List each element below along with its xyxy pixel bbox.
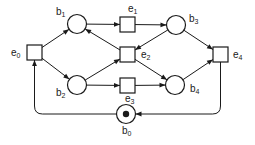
label-e0: e0 — [11, 47, 21, 59]
arc-e2-to-b4 — [135, 59, 167, 80]
transition-e3 — [120, 78, 135, 93]
arc-b4-to-e4 — [183, 60, 213, 80]
label-b3: b3 — [189, 13, 199, 25]
arc-e2-to-b1 — [85, 29, 120, 50]
arc-b3-to-e2 — [135, 30, 168, 50]
label-b2: b2 — [56, 87, 66, 99]
label-b4: b4 — [190, 83, 200, 95]
transition-e4 — [213, 47, 228, 62]
place-b4 — [166, 76, 185, 95]
label-e3: e3 — [125, 93, 135, 105]
place-b1 — [68, 15, 87, 34]
label-e4: e4 — [233, 49, 243, 61]
place-b3 — [167, 16, 186, 35]
label-b1: b1 — [56, 6, 66, 18]
place-b2 — [68, 76, 87, 95]
arc-b2-to-e2 — [85, 59, 120, 80]
arc-e0-to-b1 — [42, 29, 69, 47]
nodes — [27, 15, 228, 124]
transition-e2 — [120, 47, 135, 62]
label-b0: b0 — [122, 125, 132, 137]
petri-net-diagram: b0b1b2b3b4e0e1e2e3e4 — [0, 0, 255, 145]
arc-b3-to-e4 — [184, 30, 213, 49]
transition-e1 — [120, 17, 135, 32]
token-icon — [123, 111, 129, 117]
transition-e0 — [27, 45, 42, 60]
label-e1: e1 — [128, 3, 138, 15]
label-e2: e2 — [141, 49, 151, 61]
arc-e0-to-b2 — [42, 58, 69, 79]
